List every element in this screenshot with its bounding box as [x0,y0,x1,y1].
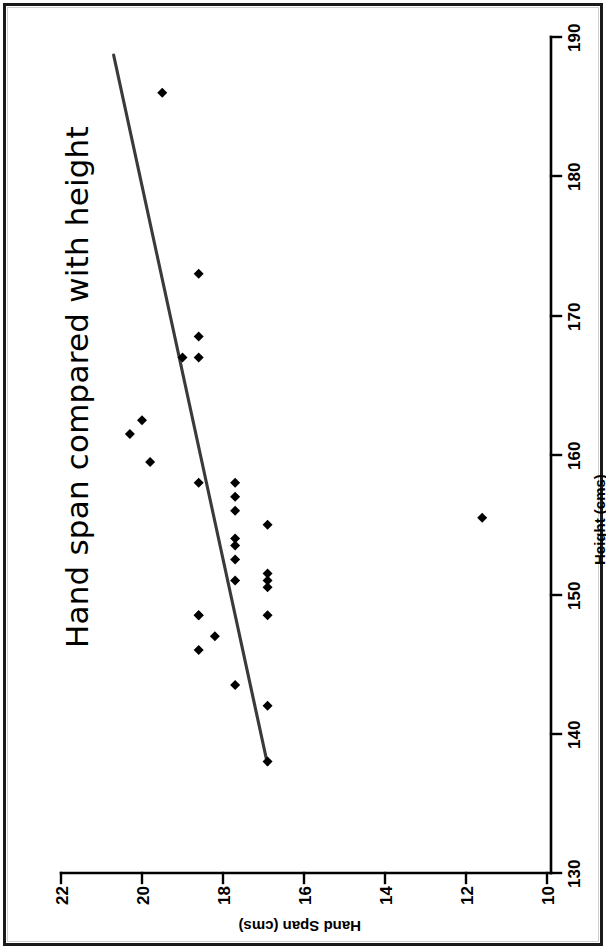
data-point [263,568,273,578]
data-point [145,457,155,467]
data-point [157,88,167,98]
data-point [230,575,240,585]
data-point [194,610,204,620]
data-point [194,478,204,488]
data-point [230,478,240,488]
trend-line [114,55,268,764]
data-point [263,701,273,711]
data-point [194,352,204,362]
data-point [477,513,487,523]
x-tick-label-140: 140 [566,721,583,749]
data-point [230,541,240,551]
height-axis-ticks [551,37,561,873]
y-axis-title: Hand Span (cms) [238,919,361,934]
x-tick-label-160: 160 [566,442,583,470]
y-tick-label-14: 14 [378,886,395,905]
data-point [230,506,240,516]
figure-page: Hand span compared with height 190 180 1… [0,0,606,949]
data-point [210,631,220,641]
data-point [230,680,240,690]
data-point-group [125,88,487,767]
axis-spines [61,37,551,873]
x-tick-label-130: 130 [566,860,583,888]
data-point [263,610,273,620]
y-tick-label-22: 22 [54,886,71,905]
x-tick-label-150: 150 [566,582,583,610]
data-point [137,415,147,425]
data-point [125,429,135,439]
x-tick-label-190: 190 [566,24,583,52]
x-tick-label-180: 180 [566,163,583,191]
y-tick-label-20: 20 [135,886,152,905]
x-tick-label-170: 170 [566,303,583,331]
data-point [263,520,273,530]
y-tick-label-10: 10 [540,886,557,905]
data-point [194,645,204,655]
handspan-axis-ticks [61,873,547,883]
data-point [263,757,273,767]
chart-title: Hand span compared with height [62,126,93,648]
data-point [263,582,273,592]
y-tick-label-18: 18 [216,886,233,905]
data-point [194,269,204,279]
data-point [230,492,240,502]
x-axis-title: Height (cms) [592,474,606,565]
y-tick-label-16: 16 [297,886,314,905]
data-point [230,555,240,565]
data-point [194,332,204,342]
y-tick-label-12: 12 [459,886,476,905]
